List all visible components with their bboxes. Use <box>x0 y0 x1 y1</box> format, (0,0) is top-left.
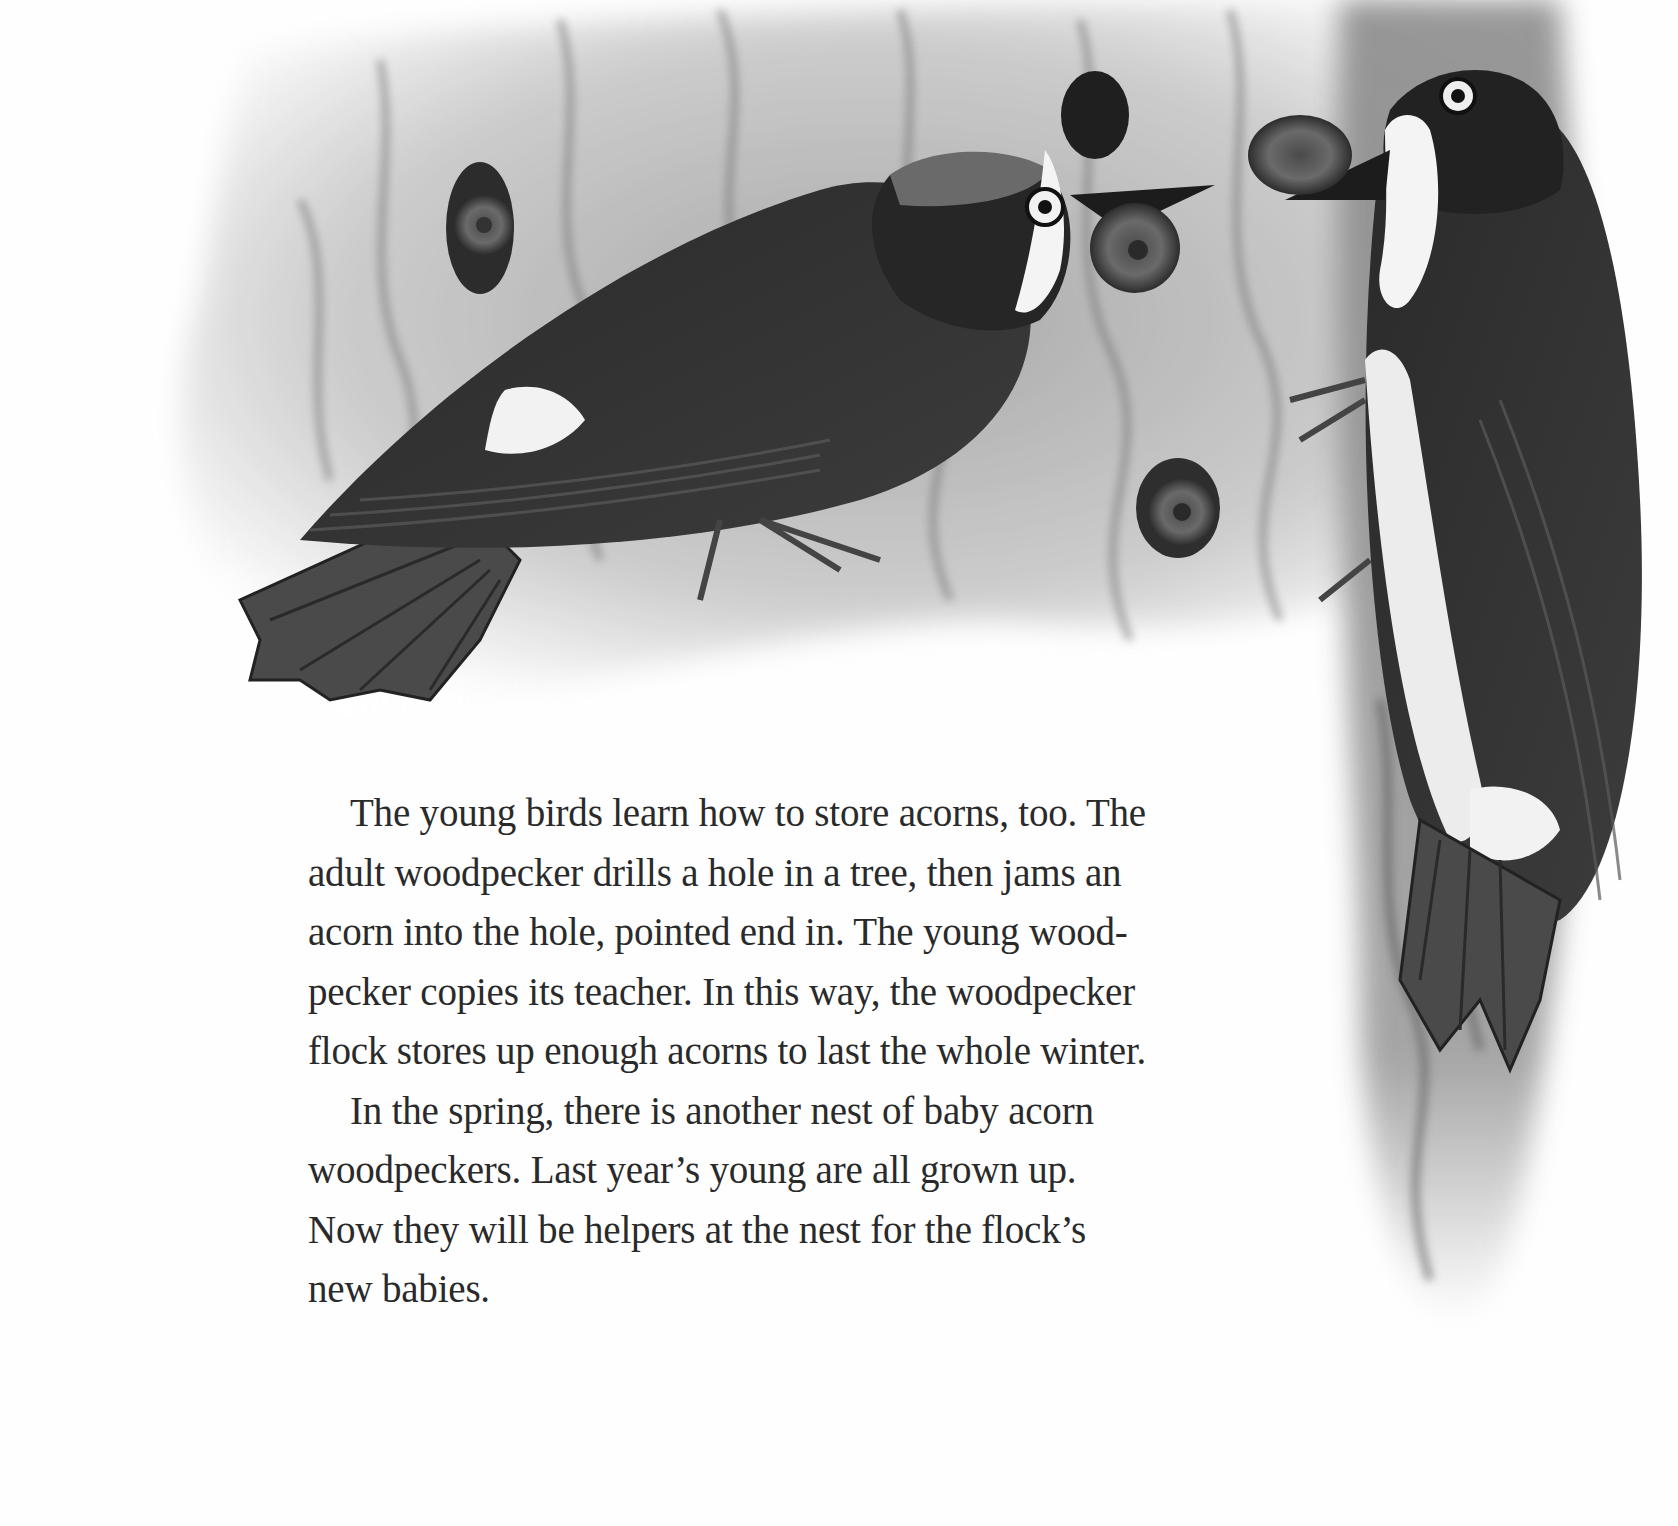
body-text: The young birds learn how to store acorn… <box>308 783 1318 1319</box>
paragraph-2: In the spring, there is another nest of … <box>308 1081 1318 1319</box>
text-line: pecker copies its teacher. In this way, … <box>308 962 1318 1022</box>
paragraph-1: The young birds learn how to store acorn… <box>308 783 1318 1081</box>
text-line: new babies. <box>308 1259 1318 1319</box>
acorn-left-hole <box>446 162 514 294</box>
text-line: adult woodpecker drills a hole in a tree… <box>308 843 1318 903</box>
book-page: The young birds learn how to store acorn… <box>0 0 1678 1526</box>
text-line: Now they will be helpers at the nest for… <box>308 1200 1318 1260</box>
text-line: The young birds learn how to store acorn… <box>308 783 1318 843</box>
acorn-top-hole <box>1061 71 1129 159</box>
text-line: acorn into the hole, pointed end in. The… <box>308 902 1318 962</box>
text-line: flock stores up enough acorns to last th… <box>308 1021 1318 1081</box>
text-line: woodpeckers. Last year’s young are all g… <box>308 1140 1318 1200</box>
acorn-lower-hole <box>1136 458 1220 558</box>
text-line: In the spring, there is another nest of … <box>308 1081 1318 1141</box>
